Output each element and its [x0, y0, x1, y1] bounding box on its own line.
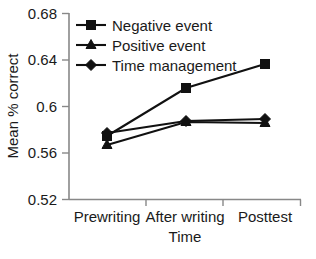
y-tick-label-4: 0.52 [28, 191, 57, 208]
diamond-marker [86, 60, 97, 71]
square-marker [87, 21, 96, 30]
chart-legend: Negative event Positive event Time manag… [76, 17, 237, 74]
x-tick-label-prewriting: Prewriting [74, 208, 141, 225]
x-tick-label-posttest: Posttest [238, 208, 293, 225]
y-tick-label-3: 0.56 [28, 144, 57, 161]
legend-label-negative-event: Negative event [112, 17, 213, 34]
y-tick-label-0: 0.68 [28, 5, 57, 22]
y-tick-label-2: 0.6 [36, 98, 57, 115]
x-axis-title: Time [169, 228, 202, 245]
line-chart-figure: 0.68 0.64 0.6 0.56 0.52 Mean % correct P… [0, 0, 316, 259]
square-marker [182, 84, 191, 93]
chart-canvas: 0.68 0.64 0.6 0.56 0.52 Mean % correct P… [0, 0, 316, 259]
legend-label-positive-event: Positive event [112, 37, 206, 54]
legend-item-positive-event[interactable]: Positive event [76, 37, 206, 54]
x-tick-label-after-writing: After writing [145, 208, 224, 225]
series-time-management [102, 114, 271, 139]
y-axis-title: Mean % correct [4, 53, 21, 159]
x-axis: Prewriting After writing Posttest Time [69, 200, 301, 246]
legend-item-negative-event[interactable]: Negative event [76, 17, 213, 34]
legend-item-time-management[interactable]: Time management [76, 57, 237, 74]
legend-label-time-management: Time management [112, 57, 237, 74]
y-tick-label-1: 0.64 [28, 51, 57, 68]
square-marker [261, 60, 270, 69]
y-axis: 0.68 0.64 0.6 0.56 0.52 Mean % correct [4, 5, 69, 208]
